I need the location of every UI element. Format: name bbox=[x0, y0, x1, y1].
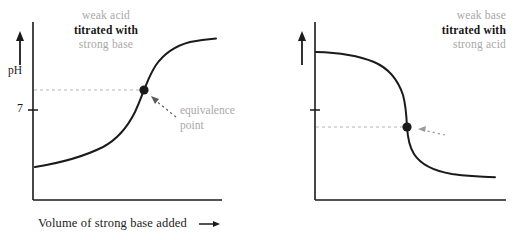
right-equivalence-point-dot bbox=[402, 122, 411, 131]
left-equivalence-label: equivalence point bbox=[180, 103, 235, 133]
left-equivalence-line2: point bbox=[180, 119, 204, 131]
left-ph-up-arrow-icon bbox=[16, 31, 24, 65]
titration-curves-figure: weak acid titrated with strong base pH 7… bbox=[0, 0, 525, 240]
left-x-axis-right-arrow-icon bbox=[198, 219, 222, 229]
panel-weak-base-strong-acid: weak base titrated with strong acid pH 7… bbox=[262, 0, 524, 240]
panel-weak-acid-strong-base: weak acid titrated with strong base pH 7… bbox=[0, 0, 262, 240]
left-tick-label-7: 7 bbox=[17, 101, 23, 116]
left-caption-line2: titrated with bbox=[58, 23, 154, 38]
left-caption-line3: strong base bbox=[58, 37, 154, 52]
left-equivalence-line1: equivalence bbox=[180, 104, 235, 116]
right-caption-line2: titrated with bbox=[376, 23, 506, 38]
left-caption: weak acid titrated with strong base bbox=[58, 8, 154, 52]
right-caption: weak base titrated with strong acid bbox=[376, 8, 506, 52]
right-dotted-arrow-icon bbox=[418, 126, 445, 135]
right-caption-line3: strong acid bbox=[376, 37, 506, 52]
left-y-axis-label: pH bbox=[8, 64, 22, 76]
left-caption-line1: weak acid bbox=[58, 8, 154, 23]
right-titration-curve bbox=[316, 52, 495, 177]
right-caption-line1: weak base bbox=[376, 8, 506, 23]
left-dotted-arrow-icon bbox=[151, 96, 176, 117]
left-x-axis-label: Volume of strong base added bbox=[38, 216, 187, 231]
right-ph-up-arrow-icon bbox=[298, 31, 306, 65]
left-equivalence-point-dot bbox=[139, 85, 148, 94]
